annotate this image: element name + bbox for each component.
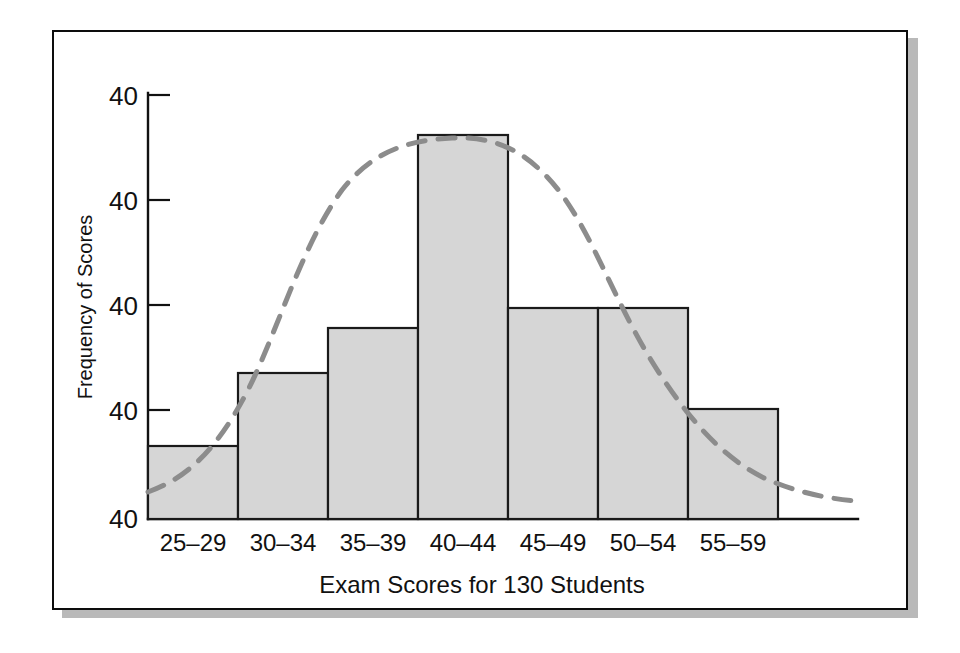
figure-root: 40 40 40 40 40 25–29 30–34 35–39 40–44 4… [0,0,960,653]
x-tick-label-30-34: 30–34 [250,529,317,556]
bar-25-29 [148,446,238,519]
histogram-chart: 40 40 40 40 40 25–29 30–34 35–39 40–44 4… [52,30,908,610]
bar-50-54 [598,308,688,519]
x-axis-title: Exam Scores for 130 Students [319,571,645,598]
bar-35-39 [328,328,418,519]
y-axis-title: Frequency of Scores [74,215,96,400]
x-tick-label-45-49: 45–49 [520,529,587,556]
y-tick-label-4: 40 [109,81,138,111]
y-tick-label-0: 40 [109,504,138,534]
x-tick-label-25-29: 25–29 [160,529,227,556]
y-tick-label-2: 40 [109,291,138,321]
y-tick-label-1: 40 [109,396,138,426]
x-tick-label-55-59: 55–59 [700,529,767,556]
x-tick-label-35-39: 35–39 [340,529,407,556]
bar-40-44 [418,135,508,519]
bar-55-59 [688,409,778,519]
x-tick-label-50-54: 50–54 [610,529,677,556]
x-tick-label-40-44: 40–44 [430,529,497,556]
bar-30-34 [238,373,328,519]
y-tick-label-3: 40 [109,186,138,216]
bar-45-49 [508,308,598,519]
